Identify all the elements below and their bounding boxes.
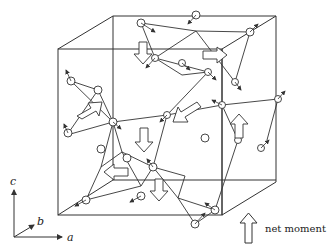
legend-label: net moment — [265, 223, 326, 234]
legend: net moment — [240, 213, 326, 243]
cell-back-edges — [113, 16, 276, 182]
b-axis-label: b — [37, 215, 44, 228]
atoms — [64, 11, 282, 228]
net-moment-arrow-icon — [240, 213, 257, 243]
cell-edge — [58, 16, 113, 49]
cell-edge — [222, 182, 276, 215]
c-axis-label: c — [10, 175, 16, 188]
magnetic-structure-diagram: c b a net moment — [0, 0, 332, 251]
a-axis-label: a — [67, 231, 74, 244]
diagram-canvas: c b a net moment — [0, 0, 332, 251]
b-axis-arrow — [14, 225, 34, 237]
axes-indicator: c b a — [10, 175, 74, 244]
